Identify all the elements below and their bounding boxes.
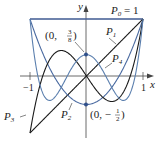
- label-p0: P0 = 1: [110, 4, 138, 18]
- pointer-p2: [69, 103, 72, 110]
- point-neg-1-2: [84, 103, 88, 107]
- axes: [20, 5, 154, 138]
- legendre-polynomials-chart: y x −1 1 P0 = 1 P1 P4 P2 P3 (0, 3 8 ) (0…: [0, 0, 162, 144]
- tick-label-pos1: 1: [141, 82, 146, 93]
- svg-text:1: 1: [116, 107, 120, 115]
- svg-text:(0, −: (0, −: [90, 108, 111, 121]
- x-axis-label: x: [149, 78, 155, 90]
- pointer-p4: [105, 63, 112, 68]
- annotation-neg-1-2: (0, − 1 2 ): [90, 107, 125, 123]
- svg-text:8: 8: [68, 36, 72, 44]
- svg-text:3: 3: [68, 28, 72, 36]
- svg-text:): ): [121, 108, 125, 121]
- annotation-3-8: (0, 3 8 ): [45, 28, 84, 52]
- svg-text:): ): [73, 29, 77, 42]
- label-p1: P1: [105, 25, 116, 39]
- label-p4: P4: [111, 52, 123, 66]
- svg-text:(0,: (0,: [45, 29, 57, 42]
- y-axis-arrow-icon: [84, 5, 89, 12]
- tick-label-neg1: −1: [23, 82, 34, 93]
- point-3-8: [84, 53, 88, 57]
- pointer-3-8: [75, 42, 84, 52]
- label-p3: P3: [3, 110, 15, 124]
- pointer-p3: [20, 115, 26, 117]
- label-p2: P2: [60, 108, 72, 122]
- svg-text:2: 2: [116, 115, 120, 123]
- y-axis-label: y: [77, 0, 83, 12]
